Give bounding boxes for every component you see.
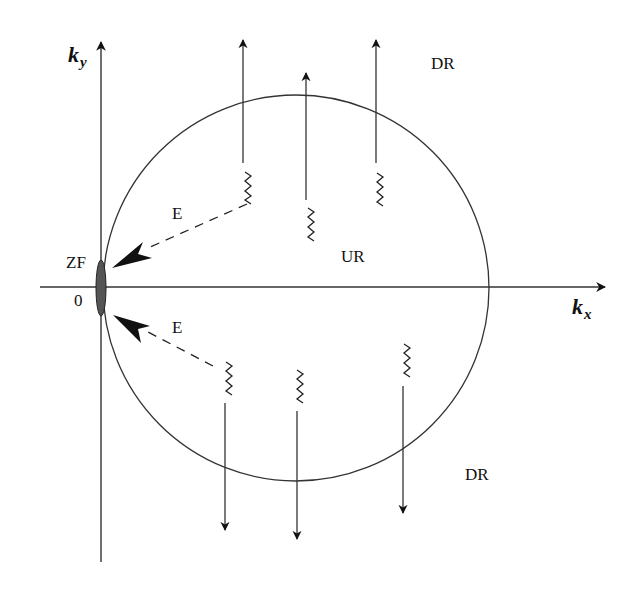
x-axis-label: kx	[572, 294, 592, 322]
zigzag-upper-2	[308, 208, 314, 241]
down-region-bottom-label: DR	[465, 465, 489, 484]
emission-label-upper: E	[172, 204, 182, 223]
zero-field-region	[96, 260, 106, 316]
upper-region-label: UR	[341, 247, 365, 266]
zigzag-lower-2	[297, 370, 303, 403]
down-region-top-label: DR	[431, 54, 455, 73]
emission-arrow-lower	[113, 315, 213, 366]
zigzag-upper-1	[245, 172, 251, 204]
k-space-diagram: ky kx 0 ZF UR DR DR E E	[0, 0, 641, 594]
zero-field-label: ZF	[66, 253, 86, 272]
y-axis-label: ky	[68, 42, 87, 70]
fermi-circle	[103, 95, 489, 481]
origin-label: 0	[74, 291, 83, 310]
zigzag-upper-3	[377, 173, 383, 206]
emission-label-lower: E	[172, 318, 182, 337]
zigzag-lower-1	[226, 362, 232, 395]
zigzag-lower-3	[404, 344, 410, 377]
